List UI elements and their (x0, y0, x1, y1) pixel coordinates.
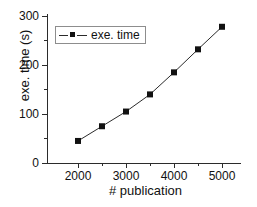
data-point (195, 46, 201, 52)
data-point (171, 69, 177, 75)
data-point (147, 91, 153, 97)
data-point (99, 123, 105, 129)
legend-box: exe. time (55, 26, 146, 44)
chart-container: exe. time (s) # publication 300 200 100 … (0, 0, 257, 207)
data-point (75, 138, 81, 144)
data-point (219, 24, 225, 30)
data-point (123, 109, 129, 115)
legend-entry-label: exe. time (91, 29, 140, 41)
legend-marker-icon (59, 29, 87, 41)
